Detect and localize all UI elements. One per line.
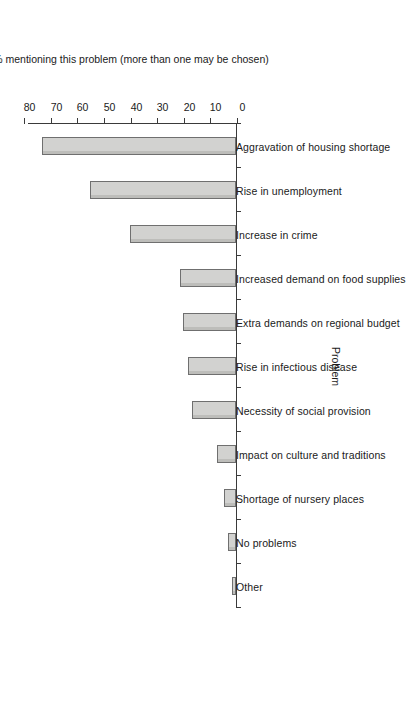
category-tick [236,167,241,168]
bar-highlight [91,195,235,198]
bar-highlight [43,151,235,154]
category-tick-label: Increased demand on food supplies [236,274,406,285]
value-axis-title: % mentioning this problem (more than one… [24,52,237,66]
bar [90,181,236,199]
bar [228,533,236,551]
bar [224,489,236,507]
bar [192,401,236,419]
bar [130,225,237,243]
value-tick [210,118,211,124]
bar-highlight [225,503,235,506]
value-tick [51,118,52,124]
value-tick [104,118,105,124]
value-tick-label: 80 [24,102,36,113]
category-tick-label: Aggravation of housing shortage [236,142,390,153]
category-axis-title: Problem [330,124,342,608]
value-tick-label: 10 [210,102,222,113]
category-tick-label: No problems [236,538,297,549]
bar [217,445,236,463]
category-tick-label: Necessity of social provision [236,406,371,417]
category-tick-label: Other [236,582,263,593]
value-tick-label: 70 [50,102,62,113]
value-tick-label: 60 [77,102,89,113]
value-tick [77,118,78,124]
value-tick-label: 0 [240,102,246,113]
bar-highlight [184,327,235,330]
value-tick [131,118,132,124]
category-tick [236,211,241,212]
category-tick [236,431,241,432]
category-tick [236,343,241,344]
category-tick-label: Increase in crime [236,230,318,241]
bar [183,313,236,331]
bar-highlight [189,371,235,374]
bar-highlight [233,591,235,594]
value-tick-label: 20 [183,102,195,113]
value-tick [157,118,158,124]
category-tick-label: Shortage of nursery places [236,494,364,505]
value-axis-line [28,123,237,124]
category-tick-label: Extra demands on regional budget [236,318,400,329]
category-tick-label: Rise in unemployment [236,186,342,197]
value-tick-label: 50 [104,102,116,113]
value-tick-label: 40 [130,102,142,113]
bar-highlight [131,239,236,242]
bar-highlight [218,459,235,462]
category-tick [236,563,241,564]
category-tick [236,519,241,520]
bar [42,137,236,155]
category-tick [236,255,241,256]
bar-highlight [193,415,235,418]
bar [188,357,236,375]
bar [180,269,236,287]
value-tick [24,118,25,124]
value-tick-label: 30 [157,102,169,113]
bar-highlight [229,547,235,550]
category-tick [236,607,241,608]
bar-highlight [181,283,235,286]
plot-area: OtherNo problemsShortage of nursery plac… [24,124,237,608]
value-tick [184,118,185,124]
category-tick-label: Impact on culture and traditions [236,450,386,461]
category-tick [236,475,241,476]
value-axis-title-text: % mentioning this problem (more than one… [0,53,268,65]
category-tick [236,387,241,388]
category-tick [236,299,241,300]
value-tick [237,118,238,124]
category-axis-title-text: Problem [330,346,342,385]
